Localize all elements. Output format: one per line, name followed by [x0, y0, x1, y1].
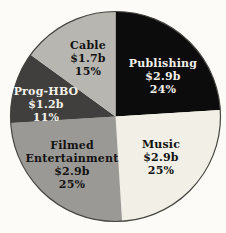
pie-slice-publishing [116, 12, 221, 117]
pie-chart-canvas [0, 0, 226, 233]
pie-chart: Publishing $2.9b 24% Music $2.9b 25% Fil… [0, 0, 226, 233]
pie-slice-music [116, 110, 221, 221]
pie-slices [11, 12, 221, 222]
pie-slice-filmed-entertainment [11, 117, 122, 222]
